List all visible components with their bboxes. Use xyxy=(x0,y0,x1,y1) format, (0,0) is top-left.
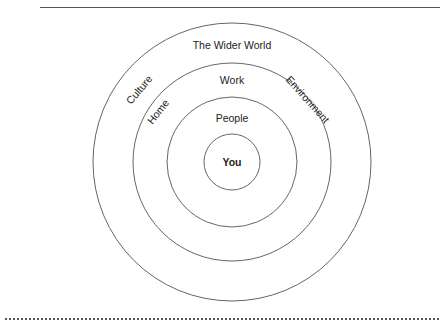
label-culture: Culture xyxy=(123,72,154,106)
concentric-circles-diagram: You People Work Home Environment The Wid… xyxy=(0,0,440,335)
label-home: Home xyxy=(144,97,171,127)
dotted-rule xyxy=(4,318,440,320)
label-people: People xyxy=(216,112,249,124)
label-you: You xyxy=(222,156,241,168)
label-environment: Environment xyxy=(284,73,332,125)
label-work: Work xyxy=(220,74,245,86)
label-wider-world: The Wider World xyxy=(193,39,272,51)
